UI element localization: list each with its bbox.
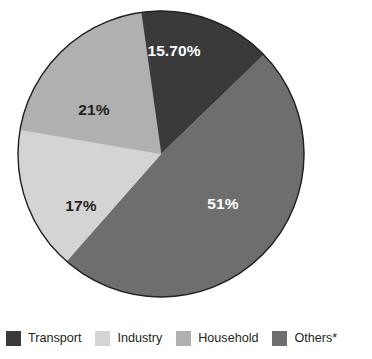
pie-slice-value-transport: 15.70% — [147, 42, 200, 59]
legend-item-others[interactable]: Others* — [272, 331, 337, 346]
legend-swatch-icon — [6, 331, 21, 346]
legend-item-transport[interactable]: Transport — [6, 331, 81, 346]
legend-swatch-icon — [95, 331, 110, 346]
pie-slice-household[interactable] — [20, 12, 161, 154]
legend-label: Industry — [117, 332, 162, 345]
legend-label: Others* — [294, 332, 337, 345]
pie-slice-value-household: 21% — [78, 101, 109, 118]
chart-legend: TransportIndustryHouseholdOthers* — [0, 325, 372, 351]
pie-slice-value-others: 51% — [207, 195, 238, 212]
legend-swatch-icon — [272, 331, 287, 346]
legend-item-household[interactable]: Household — [176, 331, 258, 346]
pie-chart-plot-area: 15.70%51%17%21% — [0, 0, 372, 312]
legend-swatch-icon — [176, 331, 191, 346]
pie-chart-figure: 15.70%51%17%21% TransportIndustryHouseho… — [0, 0, 372, 359]
legend-label: Household — [198, 332, 258, 345]
pie-chart-svg: 15.70%51%17%21% — [0, 0, 372, 312]
legend-item-industry[interactable]: Industry — [95, 331, 162, 346]
pie-slice-value-industry: 17% — [65, 197, 96, 214]
legend-label: Transport — [28, 332, 81, 345]
